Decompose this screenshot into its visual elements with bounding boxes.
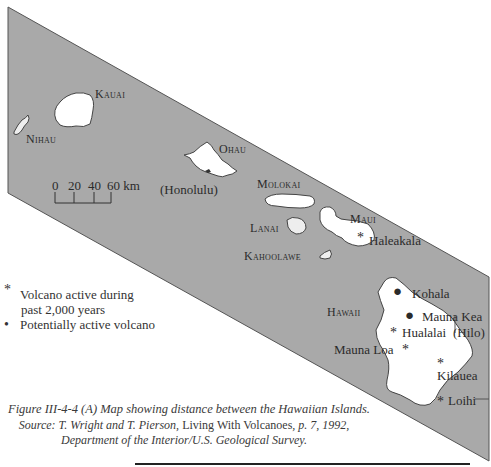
figure-source-agency: Department of the Interior/U.S. Geologic… (4, 433, 364, 448)
legend-active: * Volcano active during (4, 287, 155, 302)
active-volcano-icon: * (437, 395, 444, 409)
potential-volcano-icon: ● (393, 284, 402, 299)
label-honolulu: (Honolulu) (160, 183, 218, 196)
label-lanai: Lanai (250, 222, 279, 234)
scale-tick-20: 20 (68, 178, 81, 194)
label-nihau: Nihau (26, 133, 56, 145)
potential-volcano-icon: ● (405, 308, 414, 323)
legend: * Volcano active during past 2,000 years… (4, 287, 155, 332)
source-prefix: Source: T. Wright and T. Pierson, (19, 418, 182, 432)
legend-active-label-2: past 2,000 years (21, 302, 105, 317)
label-maui: Maui (350, 213, 376, 225)
active-volcano-icon: * (357, 231, 364, 245)
label-hawaii: Hawaii (327, 306, 360, 318)
figure-caption: Figure III-4-4 (A) Map showing distance … (4, 402, 374, 417)
island-molokai (265, 194, 315, 208)
active-volcano-icon: * (402, 343, 409, 357)
label-hilo: (Hilo) (453, 326, 485, 339)
source-suffix: , p. 7, 1992, (292, 418, 349, 432)
label-hualalai: Hualalai (402, 326, 446, 339)
label-mauna-kea: Mauna Kea (422, 310, 482, 323)
scale-tick-0: 0 (52, 178, 59, 194)
label-molokai: Molokai (257, 178, 300, 190)
label-haleakala: Haleakala (369, 234, 421, 247)
label-loihi: Loihi (448, 394, 476, 407)
scale-tick-60: 60 km (107, 178, 140, 194)
legend-active-label-1: Volcano active during (20, 287, 134, 302)
figure-source: Source: T. Wright and T. Pierson, Living… (4, 418, 364, 433)
label-kahoolawe: Kahoolawe (244, 250, 301, 262)
label-kilauea: Kilauea (437, 369, 477, 382)
legend-potential: • Potentially active volcano (4, 317, 155, 332)
potential-volcano-icon: • (4, 317, 9, 332)
source-book: Living With Volcanoes (182, 418, 292, 432)
legend-active-cont: past 2,000 years (4, 302, 155, 317)
active-volcano-icon: * (390, 326, 397, 340)
scale-tick-40: 40 (88, 178, 101, 194)
label-kohala: Kohala (412, 287, 450, 300)
label-kauai: Kauai (95, 88, 125, 100)
active-volcano-icon: * (4, 282, 11, 297)
label-ohau: Ohau (219, 143, 246, 155)
label-mauna-loa: Mauna Loa (334, 343, 394, 356)
legend-potential-label: Potentially active volcano (20, 317, 155, 332)
